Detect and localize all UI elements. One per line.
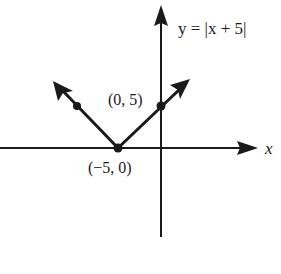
point-y-intercept	[157, 102, 166, 111]
equation-label: y = |x + 5|	[178, 19, 246, 39]
graph-canvas	[0, 0, 281, 274]
point-label-y-intercept: (0, 5)	[108, 91, 143, 109]
x-axis-label: x	[265, 139, 273, 159]
y-axis-arrow-icon	[154, 5, 168, 26]
point-vertex	[114, 144, 123, 153]
point-label-vertex: (−5, 0)	[88, 159, 132, 177]
point-left	[73, 102, 81, 110]
x-axis-arrow-icon	[237, 141, 258, 155]
